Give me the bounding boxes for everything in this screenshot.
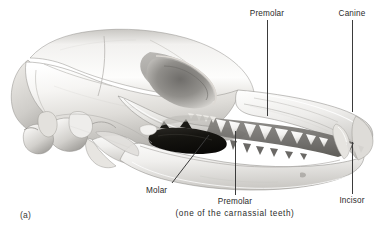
skull-figure: Premolar Canine Incisor Molar Premolar (…: [0, 0, 388, 237]
leader-line-premolar-top: [267, 20, 268, 116]
lower-tooth-5: [285, 151, 293, 159]
lower-tooth-4: [270, 148, 278, 157]
rostrum-tip: [352, 116, 373, 160]
leader-line-premolar-bottom: [235, 131, 236, 195]
panel-letter: (a): [20, 210, 31, 220]
skull-group: [11, 29, 373, 190]
lower-tooth-3: [256, 146, 264, 155]
label-canine: Canine: [339, 9, 366, 19]
label-premolar-bottom-sub: (one of the carnassial teeth): [176, 209, 295, 219]
lower-tooth-6: [300, 153, 307, 160]
label-premolar-top: Premolar: [250, 9, 284, 19]
lower-molar-small: [140, 125, 157, 135]
carnivore-skull-illustration: [0, 0, 388, 237]
leader-line-incisor: [352, 142, 353, 194]
label-premolar-bottom: Premolar: [218, 197, 252, 207]
lower-tooth-2: [243, 143, 251, 153]
label-incisor: Incisor: [339, 196, 364, 206]
leader-line-canine: [352, 20, 353, 112]
label-molar: Molar: [146, 186, 167, 196]
